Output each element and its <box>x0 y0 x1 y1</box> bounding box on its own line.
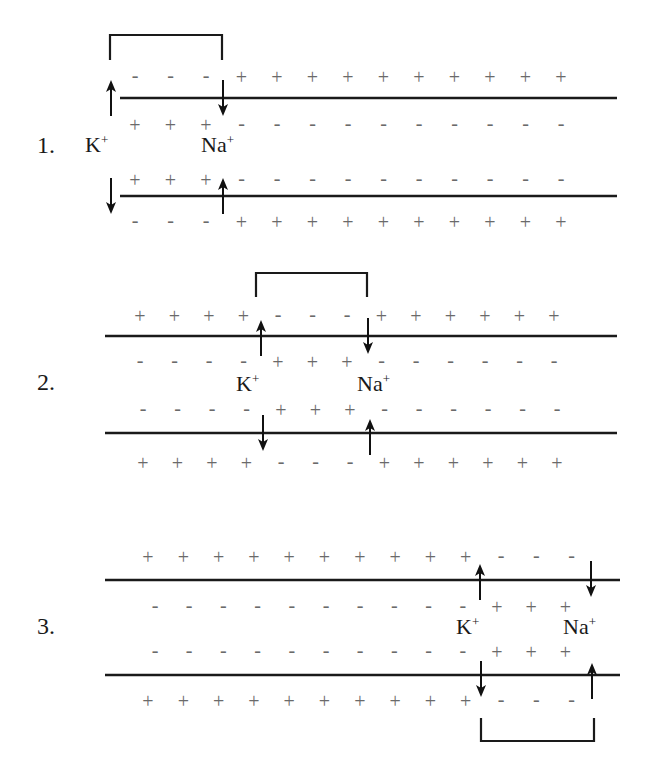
positive-charge: + <box>484 66 495 88</box>
negative-charge: - <box>254 639 261 661</box>
positive-charge: + <box>178 690 189 712</box>
active-region-bracket <box>481 718 594 741</box>
positive-charge: + <box>560 596 571 618</box>
negative-charge: - <box>568 688 575 710</box>
panel-1: 1. K+ Na+ ---++++++++++ +++---------- ++… <box>37 35 617 233</box>
positive-charge: + <box>425 546 436 568</box>
positive-charge: + <box>460 690 471 712</box>
positive-charge: + <box>526 641 537 663</box>
action-potential-diagram: 1. K+ Na+ ---++++++++++ +++---------- ++… <box>0 0 653 770</box>
negative-charge: - <box>132 209 139 231</box>
charge-row-bottom-outer: ++++---++++++ <box>137 450 562 474</box>
positive-charge: + <box>238 305 249 327</box>
negative-charge: - <box>533 688 540 710</box>
positive-charge: + <box>555 211 566 233</box>
charge-row-bottom-inner: ----+++------ <box>140 397 561 421</box>
na-influx-arrow-bottom <box>587 663 597 699</box>
negative-charge: - <box>309 167 316 189</box>
positive-charge: + <box>448 452 459 474</box>
negative-charge: - <box>206 349 213 371</box>
positive-charge: + <box>344 399 355 421</box>
negative-charge: - <box>275 303 282 325</box>
positive-charge: + <box>378 211 389 233</box>
positive-charge: + <box>551 452 562 474</box>
negative-charge: - <box>533 544 540 566</box>
negative-charge: - <box>347 450 354 472</box>
charge-row-top-inner: +++---------- <box>129 112 564 136</box>
positive-charge: + <box>129 114 140 136</box>
positive-charge: + <box>275 399 286 421</box>
positive-charge: + <box>310 399 321 421</box>
negative-charge: - <box>220 594 227 616</box>
positive-charge: + <box>342 66 353 88</box>
positive-charge: + <box>241 452 252 474</box>
positive-charge: + <box>248 546 259 568</box>
negative-charge: - <box>425 594 432 616</box>
positive-charge: + <box>236 211 247 233</box>
positive-charge: + <box>520 66 531 88</box>
negative-charge: - <box>568 544 575 566</box>
negative-charge: - <box>309 112 316 134</box>
negative-charge: - <box>209 397 216 419</box>
positive-charge: + <box>200 169 211 191</box>
negative-charge: - <box>167 64 174 86</box>
active-region-bracket <box>256 273 367 297</box>
negative-charge: - <box>243 397 250 419</box>
negative-charge: - <box>487 112 494 134</box>
positive-charge: + <box>484 211 495 233</box>
negative-charge: - <box>551 349 558 371</box>
negative-charge: - <box>391 594 398 616</box>
negative-charge: - <box>345 167 352 189</box>
positive-charge: + <box>555 66 566 88</box>
positive-charge: + <box>389 690 400 712</box>
negative-charge: - <box>152 594 159 616</box>
active-region-bracket <box>110 35 222 60</box>
negative-charge: - <box>391 639 398 661</box>
positive-charge: + <box>272 351 283 373</box>
na-ion-label: Na+ <box>357 371 390 396</box>
positive-charge: + <box>307 211 318 233</box>
k-efflux-arrow-bottom <box>106 178 116 214</box>
negative-charge: - <box>380 112 387 134</box>
positive-charge: + <box>445 305 456 327</box>
positive-charge: + <box>354 690 365 712</box>
negative-charge: - <box>186 639 193 661</box>
k-ion-label: K+ <box>236 371 259 396</box>
positive-charge: + <box>137 452 148 474</box>
positive-charge: + <box>560 641 571 663</box>
negative-charge: - <box>459 594 466 616</box>
positive-charge: + <box>319 546 330 568</box>
positive-charge: + <box>526 596 537 618</box>
negative-charge: - <box>345 112 352 134</box>
negative-charge: - <box>425 639 432 661</box>
positive-charge: + <box>271 211 282 233</box>
positive-charge: + <box>460 546 471 568</box>
negative-charge: - <box>167 209 174 231</box>
step-label: 3. <box>37 613 55 639</box>
na-influx-arrow-bottom <box>365 419 375 455</box>
negative-charge: - <box>498 688 505 710</box>
positive-charge: + <box>378 66 389 88</box>
negative-charge: - <box>238 167 245 189</box>
negative-charge: - <box>323 594 330 616</box>
negative-charge: - <box>522 112 529 134</box>
step-label: 1. <box>37 132 55 158</box>
negative-charge: - <box>137 349 144 371</box>
negative-charge: - <box>485 397 492 419</box>
positive-charge: + <box>307 66 318 88</box>
negative-charge: - <box>381 397 388 419</box>
negative-charge: - <box>516 349 523 371</box>
positive-charge: + <box>213 546 224 568</box>
positive-charge: + <box>284 690 295 712</box>
step-label: 2. <box>37 369 55 395</box>
positive-charge: + <box>129 169 140 191</box>
charge-row-bottom-outer: ++++++++++--- <box>142 688 575 712</box>
negative-charge: - <box>416 112 423 134</box>
charge-row-top-inner: ----------+++ <box>152 594 571 618</box>
positive-charge: + <box>354 546 365 568</box>
negative-charge: - <box>274 167 281 189</box>
positive-charge: + <box>213 690 224 712</box>
negative-charge: - <box>323 639 330 661</box>
positive-charge: + <box>203 305 214 327</box>
positive-charge: + <box>548 305 559 327</box>
